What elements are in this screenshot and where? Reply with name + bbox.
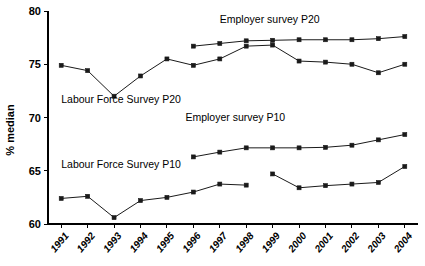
data-point-marker <box>324 38 328 42</box>
series-annotation: Labour Force Survey P20 <box>61 93 181 105</box>
data-point-marker <box>86 194 90 198</box>
x-tick-label: 1991 <box>48 230 71 254</box>
annotation-layer: Employer survey P20Labour Force Survey P… <box>61 13 320 169</box>
x-tick-label: 1998 <box>233 230 256 254</box>
series-labour-force-survey-p20 <box>59 43 407 98</box>
x-tick-label: 2001 <box>312 230 336 255</box>
data-point-marker <box>271 172 275 176</box>
data-point-marker <box>191 44 195 48</box>
data-point-marker <box>271 38 275 42</box>
series-path <box>61 45 405 96</box>
data-point-marker <box>218 182 222 186</box>
data-point-marker <box>403 133 407 137</box>
y-axis-label: % median <box>4 104 16 156</box>
data-point-marker <box>86 69 90 73</box>
series-annotation: Employer survey P10 <box>185 111 285 123</box>
line-chart: % median 8075706560 19911992199319941995… <box>0 0 425 266</box>
data-point-marker <box>403 62 407 66</box>
chart-container: % median 8075706560 19911992199319941995… <box>0 0 425 266</box>
data-point-marker <box>218 150 222 154</box>
x-axis-ticks: 1991199219931994199519961997199819992000… <box>48 224 415 255</box>
data-point-marker <box>165 195 169 199</box>
data-point-marker <box>350 143 354 147</box>
data-point-marker <box>139 199 143 203</box>
data-point-marker <box>403 164 407 168</box>
series-labour-force-survey-p10 <box>59 164 407 219</box>
x-tick-label: 2004 <box>391 230 415 255</box>
x-tick-label: 2003 <box>365 230 389 255</box>
data-point-marker <box>244 44 248 48</box>
data-point-marker <box>297 186 301 190</box>
data-point-marker <box>297 59 301 63</box>
y-tick-label: 75 <box>29 58 41 70</box>
series-path <box>61 184 246 218</box>
data-point-marker <box>350 38 354 42</box>
data-point-marker <box>191 63 195 67</box>
data-point-marker <box>218 41 222 45</box>
data-point-marker <box>139 74 143 78</box>
x-tick-label: 1994 <box>127 230 150 254</box>
series-annotation: Employer survey P20 <box>220 13 320 25</box>
y-tick-label: 60 <box>29 218 41 230</box>
x-tick-label: 1993 <box>101 230 124 254</box>
data-point-marker <box>59 196 63 200</box>
x-tick-label: 1997 <box>207 230 230 254</box>
series-layer <box>59 35 407 220</box>
data-point-marker <box>59 63 63 67</box>
y-tick-label: 65 <box>29 165 41 177</box>
x-tick-label: 2000 <box>285 230 309 255</box>
x-tick-label: 1995 <box>154 230 177 254</box>
series-path <box>273 166 405 187</box>
data-point-marker <box>376 138 380 142</box>
data-point-marker <box>350 62 354 66</box>
data-point-marker <box>350 182 354 186</box>
data-point-marker <box>112 216 116 220</box>
x-tick-label: 1996 <box>180 230 203 254</box>
data-point-marker <box>376 37 380 41</box>
data-point-marker <box>324 184 328 188</box>
x-tick-label: 1992 <box>74 230 97 254</box>
data-point-marker <box>218 57 222 61</box>
series-employer-survey-p10 <box>191 133 406 159</box>
y-axis-ticks: 8075706560 <box>29 5 48 230</box>
y-axis-label-group: % median <box>4 104 16 156</box>
data-point-marker <box>297 38 301 42</box>
data-point-marker <box>244 39 248 43</box>
data-point-marker <box>376 180 380 184</box>
data-point-marker <box>165 57 169 61</box>
data-point-marker <box>324 60 328 64</box>
series-employer-survey-p20 <box>191 35 406 49</box>
data-point-marker <box>191 155 195 159</box>
y-tick-label: 70 <box>29 112 41 124</box>
x-tick-label: 2002 <box>338 230 362 255</box>
data-point-marker <box>244 183 248 187</box>
data-point-marker <box>244 146 248 150</box>
data-point-marker <box>191 190 195 194</box>
data-point-marker <box>403 35 407 39</box>
data-point-marker <box>324 145 328 149</box>
data-point-marker <box>271 146 275 150</box>
data-point-marker <box>376 71 380 75</box>
data-point-marker <box>297 146 301 150</box>
x-tick-label: 1999 <box>259 230 282 254</box>
data-point-marker <box>271 43 275 47</box>
y-tick-label: 80 <box>29 5 41 17</box>
series-annotation: Labour Force Survey P10 <box>61 158 181 170</box>
